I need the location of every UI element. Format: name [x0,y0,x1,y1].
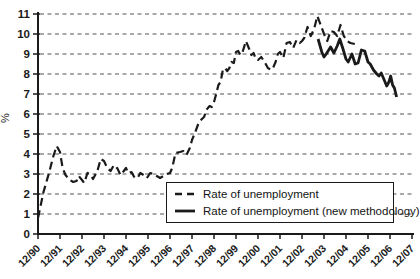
legend-item-unemployment: Rate of unemployment [175,188,393,200]
y-tick-label: 8 [24,68,31,80]
x-tick-label: 12/98 [191,242,218,269]
y-tick-label: 6 [24,108,30,120]
x-tick-label: 12/95 [125,242,152,269]
x-tick-label: 12/00 [235,242,262,269]
y-tick-label: 5 [24,128,31,140]
legend: Rate of unemployment Rate of unemploymen… [166,182,394,223]
x-tick-label: 12/06 [367,242,394,269]
dashed-line-swatch-icon [175,190,195,198]
solid-line-swatch-icon [175,207,195,215]
legend-label-unemployment: Rate of unemployment [203,188,319,200]
y-tick-label: 4 [24,148,31,160]
x-tick-label: 12/97 [169,242,196,269]
legend-item-unemployment-new: Rate of unemployment (new methodology) [175,205,393,217]
y-tick-label: 2 [24,188,30,200]
x-tick-label: 12/92 [59,242,86,269]
y-tick-label: 9 [24,48,30,60]
y-tick-label: 0 [24,228,30,240]
x-tick-label: 12/96 [147,242,174,269]
x-tick-label: 12/91 [37,242,64,269]
y-tick-label: 7 [24,88,30,100]
y-tick-label: 11 [18,8,31,20]
y-tick-label: 3 [24,168,30,180]
x-tick-label: 12/04 [323,242,350,269]
x-tick-label: 12/94 [103,242,130,269]
legend-label-unemployment-new: Rate of unemployment (new methodology) [203,205,420,217]
x-tick-label: 12/90 [15,242,42,269]
y-tick-label: 1 [24,208,31,220]
x-tick-label: 12/07 [389,242,416,269]
x-tick-label: 12/99 [213,242,240,269]
y-tick-label: 10 [17,28,30,40]
x-tick-label: 12/03 [301,242,328,269]
x-tick-label: 12/05 [345,242,372,269]
x-tick-label: 12/93 [81,242,108,269]
series-line-solid [318,39,397,97]
x-tick-label: 12/01 [257,242,284,269]
x-tick-label: 12/02 [279,242,306,269]
y-axis-title: % [0,113,11,123]
